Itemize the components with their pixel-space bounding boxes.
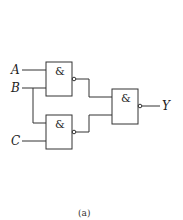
- input-label-c: C: [11, 134, 20, 148]
- figure-caption: (a): [78, 208, 90, 218]
- gate-3-symbol: &: [121, 92, 131, 105]
- wire-g1-g3: [76, 79, 112, 97]
- inversion-bubble-3: [138, 104, 142, 108]
- input-label-a: A: [10, 63, 20, 77]
- logic-circuit-diagram: A B C Y & & & (a): [0, 0, 183, 220]
- wire-g2-g3: [76, 115, 112, 132]
- inversion-bubble-1: [72, 77, 76, 81]
- output-label-y: Y: [162, 99, 171, 113]
- input-label-b: B: [10, 81, 20, 95]
- wire-b-branch: [33, 88, 46, 123]
- inversion-bubble-2: [72, 130, 76, 134]
- gate-2-symbol: &: [55, 118, 65, 131]
- gate-1-symbol: &: [55, 65, 65, 78]
